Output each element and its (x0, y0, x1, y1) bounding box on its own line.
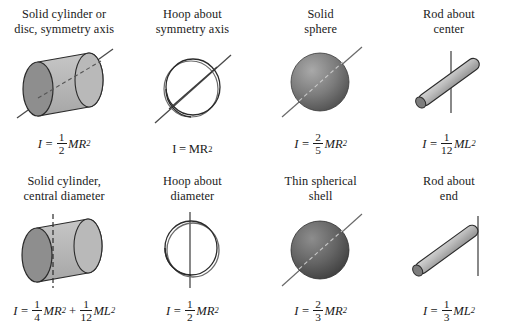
cell-caption: Solid cylinder, central diameter (24, 174, 105, 203)
fraction-denominator: 3 (315, 311, 321, 323)
figure-solid-cylinder-central-diameter (0, 201, 128, 299)
cell-rod-about-end: Rod about end (385, 167, 513, 334)
formula-body: MR (189, 143, 209, 156)
cell-solid-cylinder-central-diameter: Solid cylinder, central diameter (0, 167, 128, 334)
cell-hoop-symmetry-axis: Hoop about symmetry axis I = MR 2 (128, 0, 256, 167)
fraction-numerator: 1 (187, 299, 193, 311)
formula-exponent: 2 (471, 140, 475, 148)
cell-caption: Hoop about diameter (163, 174, 222, 203)
formula-equals: = (43, 138, 55, 151)
formula-fraction: 1 2 (57, 132, 67, 156)
sphere-glyph (282, 47, 362, 117)
fraction-denominator: 4 (34, 311, 40, 323)
formula-equals: = (428, 305, 440, 318)
formula-exponent: 2 (208, 146, 212, 154)
fraction-numerator: 1 (83, 299, 89, 311)
cylinder-glyph (22, 214, 102, 288)
cell-caption: Hoop about symmetry axis (156, 7, 229, 36)
cylinder-glyph (17, 49, 113, 118)
formula-solid-cylinder-symmetry-axis: I = 1 2 MR 2 (38, 132, 91, 167)
formula-equals: = (171, 305, 183, 318)
formula-body: ML (454, 138, 472, 151)
formula-fraction: 1 2 (185, 299, 195, 323)
cell-solid-cylinder-symmetry-axis: Solid cylinder or disc, symmetry axis (0, 0, 128, 167)
formula-equals: = (299, 138, 311, 151)
fraction-denominator: 12 (441, 144, 452, 156)
cell-hoop-about-diameter: Hoop about diameter I = 1 2 MR 2 (128, 167, 256, 334)
formula-solid-cylinder-central-diameter: I = 1 4 MR 2 + 1 12 ML 2 (13, 299, 115, 334)
formula-exponent-second: 2 (111, 307, 115, 315)
formula-fraction-first: 1 4 (32, 299, 42, 323)
fraction-denominator: 5 (315, 144, 321, 156)
formula-thin-spherical-shell: I = 2 3 MR 2 (294, 299, 347, 334)
formula-hoop-about-diameter: I = 1 2 MR 2 (166, 299, 219, 334)
cell-caption: Thin spherical shell (285, 174, 357, 203)
cell-rod-about-center: Rod about center (385, 0, 513, 167)
formula-body: MR (196, 305, 214, 318)
fraction-numerator: 1 (34, 299, 40, 311)
rod-glyph (413, 51, 481, 113)
formula-fraction-second: 1 12 (80, 299, 91, 323)
fraction-numerator: 2 (315, 299, 321, 311)
formula-rod-about-end: I = 1 3 ML 2 (423, 299, 475, 334)
spherical-shell-glyph (282, 214, 362, 286)
fraction-denominator: 12 (80, 311, 91, 323)
figure-solid-sphere (257, 34, 385, 132)
moment-of-inertia-table: Solid cylinder or disc, symmetry axis (0, 0, 513, 334)
formula-body: MR (68, 138, 86, 151)
hoop-glyph (165, 212, 219, 288)
formula-exponent: 2 (343, 140, 347, 148)
figure-solid-cylinder-symmetry-axis (0, 34, 128, 132)
figure-hoop-symmetry-axis (128, 34, 256, 143)
fraction-numerator: 2 (315, 132, 321, 144)
formula-exponent: 2 (343, 307, 347, 315)
cell-caption: Rod about center (423, 7, 475, 36)
cell-caption: Rod about end (423, 174, 475, 203)
figure-rod-about-center (385, 34, 513, 132)
cell-solid-sphere: Solid sphere I = (257, 0, 385, 167)
figure-hoop-about-diameter (128, 201, 256, 299)
formula-fraction: 1 12 (441, 132, 452, 156)
figure-rod-about-end (385, 201, 513, 299)
formula-operator: + (66, 305, 79, 318)
cell-caption: Solid cylinder or disc, symmetry axis (14, 7, 114, 36)
formula-exponent: 2 (86, 140, 90, 148)
formula-equals: = (18, 305, 30, 318)
cell-thin-spherical-shell: Thin spherical shell I = (257, 167, 385, 334)
formula-body-first: MR (44, 305, 62, 318)
formula-body: MR (325, 138, 343, 151)
cell-caption: Solid sphere (304, 7, 337, 36)
fraction-numerator: 1 (444, 132, 450, 144)
formula-exponent: 2 (215, 307, 219, 315)
formula-equals: = (177, 143, 189, 156)
hoop-glyph (155, 55, 231, 123)
formula-rod-about-center: I = 1 12 ML 2 (422, 132, 475, 167)
formula-fraction: 2 5 (313, 132, 323, 156)
fraction-numerator: 1 (59, 132, 65, 144)
figure-thin-spherical-shell (257, 201, 385, 299)
formula-exponent: 2 (471, 307, 475, 315)
fraction-denominator: 2 (187, 311, 193, 323)
formula-fraction: 2 3 (313, 299, 323, 323)
rod-glyph (410, 216, 480, 278)
formula-solid-sphere: I = 2 5 MR 2 (294, 132, 347, 167)
formula-hoop-symmetry-axis: I = MR 2 (172, 143, 212, 167)
fraction-denominator: 2 (59, 144, 65, 156)
fraction-denominator: 3 (444, 311, 450, 323)
formula-equals: = (427, 138, 439, 151)
formula-body: MR (325, 305, 343, 318)
formula-equals: = (299, 305, 311, 318)
formula-fraction: 1 3 (442, 299, 452, 323)
formula-body: ML (453, 305, 471, 318)
fraction-numerator: 1 (444, 299, 450, 311)
formula-body-second: ML (93, 305, 111, 318)
